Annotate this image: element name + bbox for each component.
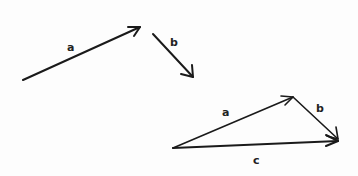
triangle-vector-c: c bbox=[173, 135, 338, 167]
triangle-a-shaft bbox=[173, 97, 293, 148]
triangle-c-label: c bbox=[253, 154, 260, 167]
vector-a-label: a bbox=[67, 41, 74, 54]
triangle-vector-b: b bbox=[293, 97, 338, 139]
triangle-a-label: a bbox=[222, 106, 229, 119]
triangle-vector-a: a bbox=[173, 96, 293, 148]
vector-diagram: a b a b c bbox=[0, 0, 358, 176]
vector-a: a bbox=[23, 27, 140, 80]
triangle-b-label: b bbox=[316, 102, 324, 115]
triangle-c-shaft bbox=[173, 141, 338, 148]
vector-a-shaft bbox=[23, 27, 140, 80]
vector-b-label: b bbox=[170, 36, 178, 49]
vector-b: b bbox=[153, 34, 193, 77]
